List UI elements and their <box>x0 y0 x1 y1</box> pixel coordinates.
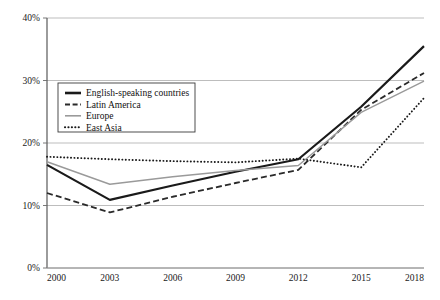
x-tick-label: 2003 <box>100 273 119 283</box>
legend-label: Europe <box>86 111 113 121</box>
y-tick-labels: 0%10%20%30%40% <box>23 13 41 273</box>
x-tick-labels: 2000200320062009201220152018 <box>47 273 424 283</box>
x-tick-label: 2018 <box>405 273 424 283</box>
x-tick-label: 2015 <box>352 273 371 283</box>
y-tick-label: 30% <box>23 76 41 86</box>
chart-container: 0%10%20%30%40% 2000200320062009201220152… <box>0 0 440 300</box>
x-tick-label: 2009 <box>226 273 245 283</box>
x-tick-label: 2012 <box>289 273 308 283</box>
legend-label: English-speaking countries <box>86 88 189 98</box>
legend-label: Latin America <box>86 100 141 110</box>
y-tick-label: 0% <box>27 263 40 273</box>
x-tick-label: 2000 <box>47 273 66 283</box>
chart-legend: English-speaking countriesLatin AmericaE… <box>58 83 195 133</box>
x-tick-label: 2006 <box>163 273 182 283</box>
y-tick-marks <box>43 18 47 268</box>
legend-label: East Asia <box>86 123 122 133</box>
y-tick-label: 10% <box>23 201 41 211</box>
line-chart: 0%10%20%30%40% 2000200320062009201220152… <box>0 0 440 300</box>
y-tick-label: 40% <box>23 13 41 23</box>
y-tick-label: 20% <box>23 138 41 148</box>
gridlines <box>47 18 424 268</box>
